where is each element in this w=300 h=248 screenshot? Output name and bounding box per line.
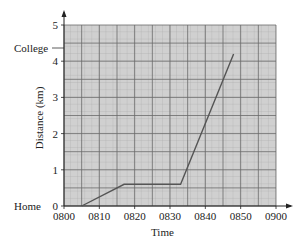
x-tick-label: 0840 — [194, 210, 217, 222]
x-tick-label: 0830 — [159, 210, 182, 222]
grid-area — [64, 25, 276, 206]
distance-time-graph: 0800081008200830084008500900012345 Home … — [0, 0, 300, 248]
x-tick-label: 0810 — [88, 210, 111, 222]
y-tick-label: 0 — [53, 200, 59, 212]
y-axis-label: Distance (km) — [33, 86, 46, 149]
y-tick-label: 4 — [53, 55, 59, 67]
y-tick-label: 5 — [53, 19, 59, 31]
x-tick-label: 0900 — [265, 210, 288, 222]
y-tick-label: 1 — [53, 164, 59, 176]
x-axis-label: Time — [151, 226, 174, 238]
x-tick-label: 0820 — [124, 210, 147, 222]
home-label: Home — [14, 200, 41, 212]
x-tick-label: 0850 — [230, 210, 253, 222]
y-tick-label: 3 — [53, 91, 59, 103]
y-tick-label: 2 — [53, 128, 59, 140]
college-label: College — [14, 42, 48, 54]
